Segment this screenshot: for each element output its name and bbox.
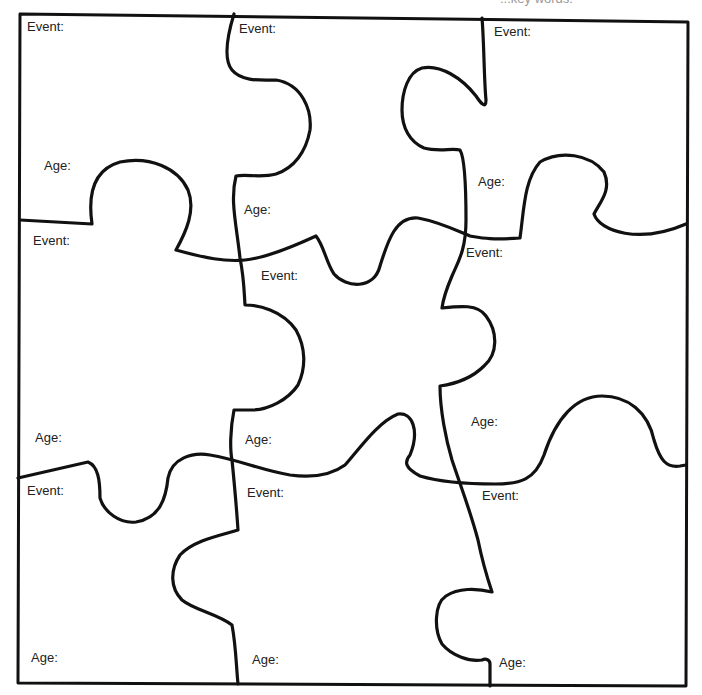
puzzle-frame [18,14,688,686]
seam-horizontal-2 [18,396,686,522]
seam-horizontal-1 [20,155,686,284]
puzzle-outline [0,0,702,695]
age-label: Age: [471,415,498,429]
event-label: Event: [494,25,531,39]
event-label: Event: [482,489,519,503]
event-label: Event: [27,20,64,34]
event-label: Event: [239,22,276,36]
age-label: Age: [244,203,271,217]
seam-vertical-2 [402,18,495,686]
seam-vertical-1 [173,14,311,684]
event-label: Event: [247,486,284,500]
age-label: Age: [478,175,505,189]
event-label: Event: [27,484,64,498]
event-label: Event: [466,246,503,260]
age-label: Age: [245,433,272,447]
age-label: Age: [35,431,62,445]
age-label: Age: [31,651,58,665]
age-label: Age: [499,656,526,670]
event-label: Event: [33,234,70,248]
age-label: Age: [252,653,279,667]
event-label: Event: [261,269,298,283]
age-label: Age: [44,159,71,173]
